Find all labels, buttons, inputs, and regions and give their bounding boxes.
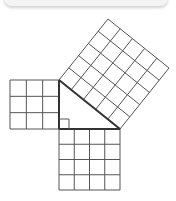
grid-line bbox=[96, 48, 145, 109]
hypotenuse-square bbox=[59, 19, 169, 129]
right-angle-marker bbox=[59, 119, 69, 129]
pythagorean-diagram bbox=[0, 0, 176, 201]
grid-line bbox=[108, 58, 157, 119]
grid-line bbox=[98, 31, 159, 80]
grid-line bbox=[59, 19, 108, 80]
triangle-hypotenuse bbox=[59, 80, 120, 129]
grid-line bbox=[83, 39, 132, 100]
grid-line bbox=[79, 56, 140, 105]
grid-line bbox=[69, 68, 130, 117]
grid-line bbox=[120, 68, 169, 129]
grid-line bbox=[71, 29, 120, 90]
bottom-square bbox=[59, 129, 120, 190]
grid-line bbox=[108, 19, 169, 68]
grid-line bbox=[88, 43, 149, 92]
left-square bbox=[10, 80, 59, 129]
